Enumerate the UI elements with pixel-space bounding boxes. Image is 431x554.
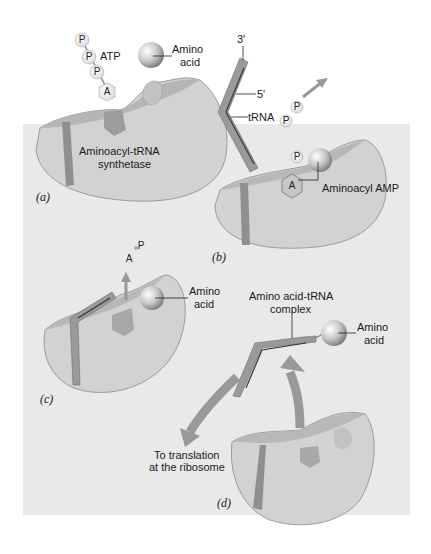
five-prime-label: 5'	[257, 88, 265, 100]
panel-tag-c: (c)	[40, 392, 53, 407]
atp-label: ATP	[100, 50, 121, 62]
released-phosphate-label-c: P	[134, 240, 148, 251]
amino-acid-label-d-line2: acid	[364, 334, 384, 346]
panel-tag-a: (a)	[36, 190, 50, 205]
panel-tag-b: (b)	[212, 250, 226, 265]
amino-acid-ball-b	[308, 148, 332, 172]
adenosine-label: A	[100, 86, 114, 97]
enzyme-a	[36, 78, 227, 201]
amino-acid-label-d-line1: Amino	[357, 321, 388, 333]
enzyme-label-line1: Aminoacyl-tRNA	[79, 145, 160, 157]
amino-acid-ball-a	[138, 42, 164, 68]
complex-label-line2: complex	[270, 303, 311, 315]
arrow-to-ribosome	[180, 377, 237, 447]
amino-acid-label-c-line2: acid	[194, 298, 214, 310]
amino-acid-label-a-line2: acid	[180, 56, 200, 68]
destination-label-line2: at the ribosome	[149, 461, 225, 473]
enzyme-label-line2: synthetase	[98, 158, 151, 170]
enzyme-d	[231, 412, 374, 524]
phosphate-label: P	[90, 66, 104, 77]
three-prime-label: 3'	[237, 33, 245, 45]
bound-phosphate-label: P	[290, 151, 304, 162]
complex-label-line1: Amino acid-tRNA	[249, 290, 333, 302]
adenosine-label-b: A	[285, 180, 299, 191]
amino-acid-label-c-line1: Amino	[189, 285, 220, 297]
arrow-enzyme-to-complex	[280, 355, 305, 428]
amino-acid-label-a-line1: Amino	[172, 43, 203, 55]
phosphate-label: P	[82, 51, 96, 62]
released-phosphate-label: P	[279, 115, 293, 126]
enzyme-c	[44, 275, 185, 393]
phosphate-label: P	[75, 34, 89, 45]
destination-label-line1: To translation	[154, 449, 219, 461]
panel-tag-d: (d)	[217, 496, 231, 511]
released-phosphate-label: P	[290, 101, 304, 112]
trna-label: tRNA	[248, 111, 274, 123]
trna-amino-acid-complex	[233, 315, 322, 397]
released-adenosine-label-c: A	[122, 253, 136, 264]
aminoacyl-amp-label: Aminoacyl AMP	[322, 182, 399, 194]
